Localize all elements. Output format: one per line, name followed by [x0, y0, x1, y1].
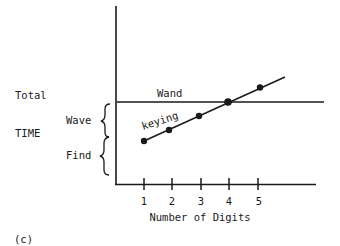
keying-vs-wand-chart: 1 2 3 4 5 Number of Digits Wand keying T…	[0, 0, 340, 246]
x-tick-label: 3	[198, 195, 204, 207]
x-tick-label: 2	[169, 195, 175, 207]
brace-label-wave: Wave	[66, 114, 91, 126]
brace-find-icon	[100, 137, 109, 175]
x-axis-label: Number of Digits	[149, 211, 250, 223]
panel-label: (c)	[14, 233, 33, 245]
data-point	[141, 138, 147, 144]
x-tick-label: 4	[226, 195, 232, 207]
y-label-total: Total	[15, 89, 47, 101]
x-tick-label: 5	[256, 195, 262, 207]
data-point	[224, 98, 232, 106]
data-point	[166, 127, 172, 133]
data-point	[257, 84, 263, 90]
brace-wave-icon	[101, 104, 110, 137]
data-point	[196, 113, 202, 119]
keying-label: keying	[140, 109, 180, 132]
brace-label-find: Find	[66, 149, 91, 161]
x-tick-label: 1	[141, 195, 147, 207]
y-label-time: TIME	[15, 127, 40, 139]
wand-label: Wand	[157, 87, 182, 99]
x-tick-labels: 1 2 3 4 5	[141, 195, 262, 207]
